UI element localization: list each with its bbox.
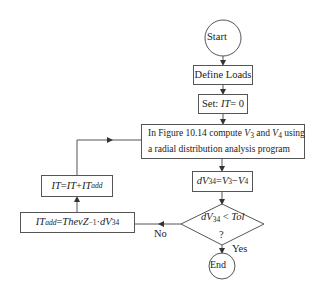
set-prefix: Set: [202,96,218,112]
itu-a: IT [67,178,76,194]
decision-question: ? [219,229,224,240]
yes-label: Yes [232,243,247,254]
ita-rhs: ThevZ [62,214,88,230]
compute-and: and [254,128,272,138]
itu-b-sub: add [91,181,102,190]
compute-text-a: In Figure 10.14 compute [148,128,244,138]
compute-text-b: using [282,128,305,138]
compute-line-2: a radial distribution analysis program [148,142,290,157]
decision-rhs: Tol [231,211,244,222]
ita-dv: dV [100,214,112,230]
dv-lhs: dV [197,173,209,189]
it-add-box: ITadd = ThevZ−1 · dV34 [20,212,135,233]
start-node: Start [207,31,227,42]
it-update-box: IT = IT + ITadd [41,175,113,197]
dv-box: dV34 = V3 − V4 [192,171,253,192]
decision-lhs: dV [201,211,213,222]
ita-lhs-sub: add [45,218,56,227]
define-loads-label: Define Loads [195,67,252,83]
set-var: IT [221,96,230,112]
decision-condition: dV34 < Tol [201,211,244,222]
itu-lhs: IT [51,178,60,194]
end-node: End [210,259,226,270]
end-label: End [210,259,226,270]
set-it-box: Set: IT = 0 [198,94,248,114]
no-label: No [154,228,167,239]
compute-box: In Figure 10.14 compute V3 and V4 using … [141,124,305,159]
decision-op: < [220,211,231,222]
define-loads-box: Define Loads [193,65,253,85]
compute-line-1: In Figure 10.14 compute V3 and V4 using [148,126,305,141]
start-label: Start [207,31,227,42]
set-rest: = 0 [230,96,244,112]
ita-lhs: IT [36,214,45,230]
itu-b: IT [82,178,91,194]
